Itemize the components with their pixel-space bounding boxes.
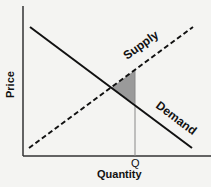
x-axis-label: Quantity (97, 168, 142, 180)
demand-label: Demand (153, 98, 199, 138)
diagram-canvas: Supply Demand Q Quantity Price (0, 0, 211, 187)
y-axis-label: Price (4, 71, 16, 98)
supply-demand-diagram: Supply Demand Q Quantity Price (0, 0, 211, 187)
deadweight-loss-area (111, 70, 135, 104)
supply-label: Supply (121, 27, 162, 62)
